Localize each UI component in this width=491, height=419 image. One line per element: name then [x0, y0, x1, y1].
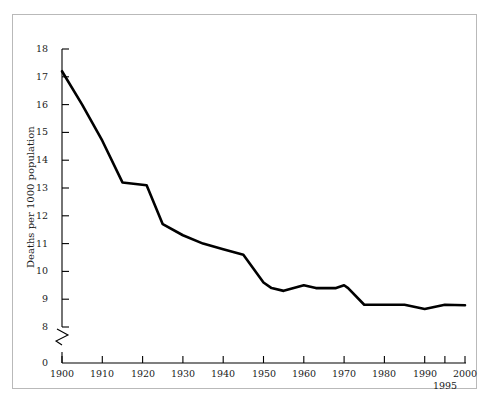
x-tick-label: 1960: [284, 369, 324, 379]
y-tick-label: 18: [22, 44, 48, 54]
x-tick-marks: [62, 356, 465, 363]
y-axis-zero-label: 0: [22, 358, 48, 368]
figure-canvas: 18 17 16 15 14 13 12 11 10 9 8 0 1900 19…: [0, 0, 491, 419]
data-series-line: [62, 71, 465, 309]
x-tick-label: 1930: [163, 369, 203, 379]
x-tick-label: 1900: [42, 369, 82, 379]
x-tick-label: 1990: [405, 369, 445, 379]
x-tick-label: 1970: [324, 369, 364, 379]
y-tick-label: 17: [22, 72, 48, 82]
x-tick-label: 1950: [244, 369, 284, 379]
y-tick-label: 16: [22, 100, 48, 110]
y-tick-label: 9: [22, 294, 48, 304]
x-tick-label: 1920: [123, 369, 163, 379]
x-tick-label: 2000: [445, 369, 485, 379]
y-axis-title: Deaths per 1000 population: [26, 126, 36, 268]
x-tick-label: 1940: [203, 369, 243, 379]
line-chart-plot: [0, 0, 491, 419]
x-tick-label-extra: 1995: [425, 381, 465, 391]
x-tick-label: 1910: [82, 369, 122, 379]
y-tick-label: 8: [22, 322, 48, 332]
y-tick-marks: [62, 49, 69, 327]
x-tick-label: 1980: [364, 369, 404, 379]
axis-break-symbol: [56, 329, 68, 345]
